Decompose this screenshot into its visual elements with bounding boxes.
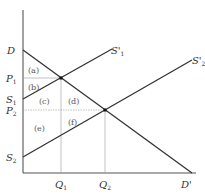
label-d: D	[6, 45, 15, 56]
label-q1: Q1	[55, 179, 67, 191]
label-s2-prime: S'2	[192, 55, 205, 67]
region-f: (f)	[68, 118, 77, 127]
label-s1-prime: S'1	[111, 45, 124, 57]
region-a: (a)	[28, 66, 39, 75]
region-c: (c)	[39, 97, 50, 106]
label-s2: S2	[6, 152, 17, 164]
demand-curve	[23, 50, 192, 173]
label-p1: P1	[5, 73, 17, 85]
supply-curve-2	[23, 60, 192, 157]
label-q2: Q2	[99, 179, 111, 191]
region-d: (d)	[68, 97, 79, 106]
supply-demand-diagram: D D' S1 S'1 S2 S'2 P1 P2 Q1 Q2 (a) (b) (…	[0, 0, 205, 195]
region-e: (e)	[34, 124, 45, 133]
label-d-prime: D'	[180, 179, 192, 190]
equilibrium-point-1	[60, 77, 63, 80]
label-p2: P2	[5, 105, 17, 117]
equilibrium-point-2	[104, 109, 107, 112]
region-b: (b)	[28, 83, 39, 92]
